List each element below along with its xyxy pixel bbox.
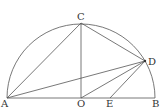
label-B: B (152, 98, 159, 108)
label-O: O (77, 98, 85, 108)
label-E: E (106, 98, 113, 108)
segment-AC (7, 23, 81, 98)
segment-AD (7, 61, 145, 98)
geometry-diagram: A B O C D E (0, 0, 162, 108)
label-D: D (148, 56, 156, 67)
point-D (144, 60, 146, 62)
segment-ED (110, 61, 145, 98)
segment-CD (81, 23, 145, 61)
label-A: A (0, 98, 9, 108)
segment-OD (81, 61, 145, 98)
label-C: C (77, 11, 85, 22)
